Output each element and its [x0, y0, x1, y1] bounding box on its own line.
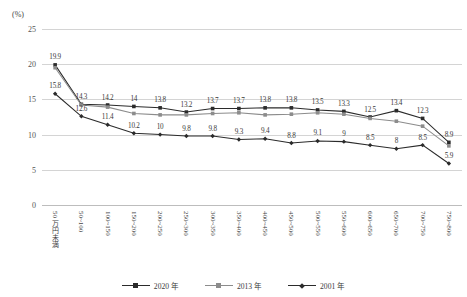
data-point-marker — [368, 143, 372, 147]
data-label: 14 — [130, 95, 137, 103]
data-point-marker — [342, 139, 346, 143]
x-tick-label: 250~300 — [182, 211, 190, 236]
data-label: 5.9 — [445, 152, 453, 160]
data-label: 13.7 — [207, 97, 219, 105]
data-point-marker — [237, 137, 241, 141]
data-label: 11.4 — [102, 113, 114, 121]
data-point-marker — [263, 137, 267, 141]
x-tick-label: 400~450 — [261, 211, 269, 236]
legend-swatch-icon — [288, 282, 316, 290]
data-label: 12.6 — [75, 105, 87, 113]
data-point-marker — [290, 106, 294, 110]
data-point-marker — [211, 107, 215, 111]
x-tick-label: 700~750 — [419, 211, 427, 236]
data-point-marker — [421, 124, 425, 128]
data-label: 9.1 — [313, 129, 321, 137]
data-label: 10.2 — [128, 122, 140, 130]
data-point-marker — [184, 134, 188, 138]
data-label: 13.2 — [180, 101, 192, 109]
data-label: 12.3 — [417, 107, 429, 115]
data-point-marker — [185, 113, 189, 117]
x-tick-label: 500~550 — [314, 211, 322, 236]
x-tick-label: 150~200 — [130, 211, 138, 236]
x-tick-label: 50~100 — [77, 211, 85, 232]
data-point-marker — [53, 66, 57, 70]
data-point-marker — [237, 107, 241, 111]
x-tick-label: 600~650 — [366, 211, 374, 236]
data-point-marker — [289, 141, 293, 145]
data-label: 9.3 — [235, 128, 243, 136]
line-chart: (%) 2520151050 19.914.314.21413.813.213.… — [0, 0, 467, 297]
legend-swatch-icon — [205, 282, 233, 290]
data-point-marker — [132, 105, 136, 109]
data-point-marker — [158, 132, 162, 136]
data-label: 15.8 — [49, 82, 61, 90]
data-point-marker — [421, 117, 425, 121]
x-tick-label: 100~150 — [104, 211, 112, 236]
legend-item[interactable]: 2013 年 — [205, 280, 262, 291]
plot-area — [0, 0, 467, 297]
data-label: 8.9 — [445, 131, 453, 139]
data-label: 19.9 — [49, 53, 61, 61]
data-label: 10 — [157, 123, 164, 131]
data-label: 9.8 — [208, 125, 216, 133]
x-tick-label: 350~400 — [235, 211, 243, 236]
x-tick-label: 650~700 — [392, 211, 400, 236]
data-point-marker — [395, 119, 399, 123]
data-label: 13.7 — [233, 97, 245, 105]
data-point-marker — [237, 111, 241, 115]
x-tick-label: 50 万円未満 — [50, 211, 60, 248]
x-tick-label: 450~500 — [287, 211, 295, 236]
data-point-marker — [395, 109, 399, 113]
data-point-marker — [263, 113, 267, 117]
data-label: 13.8 — [154, 96, 166, 104]
data-point-marker — [105, 123, 109, 127]
legend-item[interactable]: 2001 年 — [288, 280, 345, 291]
data-point-marker — [342, 112, 346, 116]
data-label: 13.5 — [312, 98, 324, 106]
data-label: 9.8 — [182, 125, 190, 133]
data-label: 13.8 — [259, 96, 271, 104]
x-tick-label: 200~250 — [156, 211, 164, 236]
data-label: 13.8 — [285, 96, 297, 104]
data-label: 8.5 — [418, 134, 426, 142]
data-point-marker — [447, 141, 451, 145]
data-point-marker — [132, 131, 136, 135]
data-point-marker — [132, 112, 136, 116]
data-point-marker — [447, 144, 451, 148]
data-point-marker — [106, 105, 110, 109]
legend-label: 2001 年 — [320, 280, 345, 291]
data-label: 9 — [342, 130, 345, 138]
legend-label: 2020 年 — [154, 280, 179, 291]
chart-legend: 2020 年2013 年2001 年 — [0, 280, 467, 291]
data-label: 8.8 — [287, 132, 295, 140]
data-point-marker — [368, 117, 372, 121]
legend-label: 2013 年 — [237, 280, 262, 291]
data-point-marker — [158, 113, 162, 117]
data-point-marker — [263, 106, 267, 110]
legend-item[interactable]: 2020 年 — [122, 280, 179, 291]
data-point-marker — [210, 134, 214, 138]
x-tick-label: 550~600 — [340, 211, 348, 236]
data-label: 13.3 — [338, 100, 350, 108]
x-tick-label: 300~350 — [209, 211, 217, 236]
data-label: 12.5 — [364, 106, 376, 114]
data-point-marker — [211, 112, 215, 116]
legend-swatch-icon — [122, 282, 150, 290]
data-point-marker — [316, 111, 320, 115]
data-point-marker — [315, 139, 319, 143]
data-point-marker — [158, 106, 162, 110]
data-label: 13.4 — [390, 99, 402, 107]
data-label: 14.2 — [102, 94, 114, 102]
x-tick-label: 750~800 — [445, 211, 453, 236]
data-label: 9.4 — [261, 127, 269, 135]
data-point-marker — [290, 112, 294, 116]
data-label: 8 — [395, 137, 398, 145]
data-point-marker — [394, 146, 398, 150]
data-label: 8.5 — [366, 134, 374, 142]
data-label: 14.3 — [75, 93, 87, 101]
